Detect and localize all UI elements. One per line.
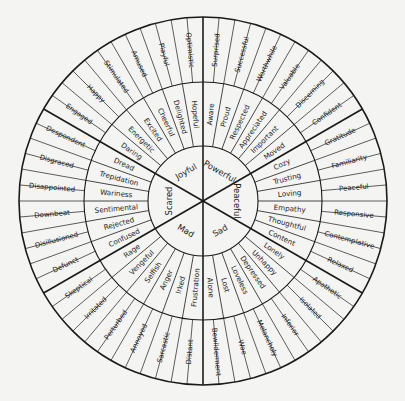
secondary-emotion-label: Sentimental [94, 202, 138, 215]
tertiary-emotion-label: Stimulated [102, 59, 130, 95]
tertiary-emotion-label: Disillusioned [34, 231, 79, 250]
tertiary-emotion-label: Sarcastic [156, 331, 172, 364]
secondary-emotion-label: Wariness [100, 188, 133, 200]
outer-divider [224, 20, 235, 84]
tertiary-emotion-label: Successful [234, 36, 251, 74]
tertiary-emotion-label: Irritated [83, 295, 109, 321]
core-emotion-label: Mad [176, 222, 196, 240]
secondary-emotion-label: Frustration [189, 268, 201, 307]
tertiary-emotion-label: Perturbed [103, 309, 129, 342]
tertiary-emotion-label: Disappointed [29, 182, 76, 194]
secondary-emotion-label: Lost [219, 277, 232, 294]
feelings-wheel: JoyfulDaringEnergeticExcitedCheerfulDeli… [0, 0, 405, 401]
tertiary-emotion-label: Isolated [297, 295, 322, 320]
wheel-labels: JoyfulDaringEnergeticExcitedCheerfulDeli… [29, 32, 375, 377]
tertiary-emotion-label: Amused [129, 49, 148, 78]
core-emotion-label: Peaceful [232, 183, 242, 218]
secondary-emotion-label: Empathy [273, 203, 307, 215]
tertiary-emotion-label: Familiarity [331, 153, 368, 170]
tertiary-emotion-label: Disgraced [39, 153, 75, 170]
secondary-emotion-label: Aware [205, 102, 216, 125]
tertiary-emotion-label: Annoyed [129, 323, 149, 354]
secondary-emotion-label: Anger [158, 268, 175, 291]
core-emotion-label: Joyful [173, 161, 199, 182]
secondary-emotion-label: Alone [205, 277, 216, 299]
secondary-emotion-label: Hopeful [190, 100, 201, 129]
tertiary-emotion-label: Happy [85, 83, 107, 105]
tertiary-emotion-label: Bewilderment [210, 327, 222, 376]
tertiary-emotion-label: Inferior [279, 312, 300, 337]
tertiary-emotion-label: Playful [157, 42, 171, 67]
outer-divider [171, 318, 182, 382]
core-emotion-label: Sad [211, 222, 230, 239]
tertiary-emotion-label: Woe [236, 339, 248, 356]
core-emotion-label: Powerful [202, 158, 238, 185]
tertiary-emotion-label: Surprised [211, 33, 222, 67]
tertiary-emotion-label: Relaxed [326, 256, 355, 275]
tertiary-emotion-label: Defunct [51, 255, 80, 274]
secondary-emotion-label: Dread [112, 156, 136, 173]
outer-divider [171, 20, 182, 84]
tertiary-emotion-label: Downbeat [34, 209, 70, 220]
tertiary-emotion-label: Worthwhile [255, 44, 279, 83]
secondary-emotion-label: Irked [174, 275, 187, 295]
outer-divider [320, 169, 384, 180]
tertiary-emotion-label: Distant [185, 339, 195, 365]
tertiary-emotion-label: Optimistic [184, 32, 195, 68]
outer-divider [22, 169, 86, 180]
tertiary-emotion-label: Discerning [294, 78, 326, 110]
secondary-emotion-label: Trepidation [98, 169, 140, 188]
tertiary-emotion-label: Peaceful [339, 183, 369, 194]
tertiary-emotion-label: Responsive [334, 208, 374, 219]
wheel-spokes [19, 17, 387, 385]
core-emotion-label: Scared [164, 187, 174, 216]
tertiary-emotion-label: Melancholy [255, 319, 279, 358]
outer-divider [224, 318, 235, 382]
tertiary-emotion-label: Gratitude [324, 126, 357, 147]
secondary-emotion-label: Loving [277, 188, 301, 199]
